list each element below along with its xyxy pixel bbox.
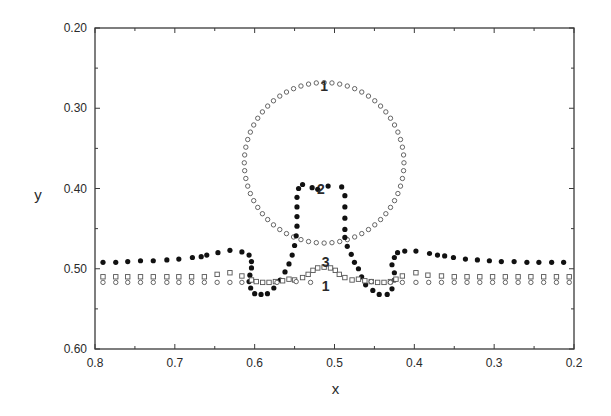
- x-tick-label: 0.4: [406, 356, 423, 370]
- curve-2-point: [389, 286, 394, 291]
- curve-3-point: [375, 280, 379, 284]
- curve-3-point: [267, 280, 271, 284]
- curve-3-point: [138, 275, 142, 279]
- curve-1-point: [215, 280, 219, 284]
- curve-2-point: [349, 252, 354, 257]
- curve-2-point: [549, 260, 554, 265]
- curve-3-point: [101, 275, 105, 279]
- curve-2-point: [258, 292, 263, 297]
- curve-1-point: [189, 280, 193, 284]
- curve-1-point: [388, 280, 392, 284]
- curve-1-point: [478, 280, 482, 284]
- curve-1-point: [366, 94, 370, 98]
- curve-2-point: [249, 265, 254, 270]
- curve-2-point: [290, 253, 295, 258]
- curve-1-point: [503, 280, 507, 284]
- curve-3-point: [343, 275, 347, 279]
- curve-1-point: [396, 130, 400, 134]
- curve-3-point: [114, 275, 118, 279]
- curve-1-point: [278, 227, 282, 231]
- curve-1-point: [248, 130, 252, 134]
- curve-3-point: [503, 275, 507, 279]
- curve-1-point: [138, 280, 142, 284]
- curve-label: 3: [322, 254, 330, 270]
- curve-1-point: [314, 81, 318, 85]
- curve-1-point: [244, 145, 248, 149]
- curve-1-point: [177, 280, 181, 284]
- curve-2-point: [377, 292, 382, 297]
- curve-2-point: [204, 253, 209, 258]
- curve-2-point: [342, 204, 347, 209]
- curve-1-point: [299, 237, 303, 241]
- curve-3-point: [151, 275, 155, 279]
- curve-1-point: [284, 90, 288, 94]
- curve-2-point: [248, 285, 253, 290]
- curve-1-point: [126, 280, 130, 284]
- curve-3-point: [202, 275, 206, 279]
- y-tick-label: 0.30: [64, 101, 88, 115]
- curve-2-point: [326, 183, 331, 188]
- curve-3-point: [215, 272, 219, 276]
- curve-2-point: [164, 257, 169, 262]
- curve-2-point: [294, 224, 299, 229]
- curve-2-point: [138, 258, 143, 263]
- curve-2-point: [300, 182, 305, 187]
- curve-1-point: [352, 235, 356, 239]
- curve-3-point: [529, 275, 533, 279]
- curve-1-point: [202, 280, 206, 284]
- curve-3-point: [177, 275, 181, 279]
- curve-1-point: [516, 280, 520, 284]
- curve-3-point: [382, 280, 386, 284]
- curve-2-point: [190, 255, 195, 260]
- curve-1-point: [252, 198, 256, 202]
- curve-1-point: [360, 231, 364, 235]
- curve-3-point: [452, 275, 456, 279]
- curve-1-point: [114, 280, 118, 284]
- curve-1-point: [256, 205, 260, 209]
- curve-3-point: [254, 279, 258, 283]
- curve-3-point: [400, 274, 404, 278]
- curve-1-point: [414, 280, 418, 284]
- curve-3-point: [280, 279, 284, 283]
- curve-2-point: [271, 285, 276, 290]
- curve-1-point: [260, 212, 264, 216]
- curve-2-point: [356, 266, 361, 271]
- curve-1-point: [567, 280, 571, 284]
- curve-1-point: [398, 184, 402, 188]
- curve-3-point: [249, 278, 253, 282]
- curve-1-point: [337, 82, 341, 86]
- curve-1-point: [306, 239, 310, 243]
- curve-1-point: [244, 176, 248, 180]
- y-tick-label: 0.50: [64, 262, 88, 276]
- curve-2-point: [427, 251, 432, 256]
- curve-2-point: [282, 269, 287, 274]
- x-tick-label: 0.7: [166, 356, 183, 370]
- curve-3-point: [363, 279, 367, 283]
- curve-1-point: [427, 280, 431, 284]
- curve-2-point: [392, 255, 397, 260]
- curve-2-point: [294, 195, 299, 200]
- curve-1-point: [240, 280, 244, 284]
- curve-3-point: [165, 275, 169, 279]
- y-tick-label: 0.40: [64, 182, 88, 196]
- curve-2-point: [294, 204, 299, 209]
- curve-2-point: [252, 291, 257, 296]
- curve-1-point: [402, 161, 406, 165]
- curve-1-point: [388, 116, 392, 120]
- curve-2-point: [215, 250, 220, 255]
- curve-1-point: [465, 280, 469, 284]
- curve-2-point: [392, 270, 397, 275]
- curve-2-point: [435, 253, 440, 258]
- x-tick-label: 0.6: [246, 356, 263, 370]
- curve-1-point: [529, 280, 533, 284]
- curve-2-point: [151, 258, 156, 263]
- curve-2-point: [227, 248, 232, 253]
- curve-2-point: [239, 249, 244, 254]
- curve-1-point: [378, 104, 382, 108]
- curve-3-point: [490, 275, 494, 279]
- curve-3-point: [541, 275, 545, 279]
- curve-1-point: [330, 240, 334, 244]
- curve-2-point: [125, 259, 130, 264]
- curve-1-point: [314, 240, 318, 244]
- x-axis-label: x: [332, 380, 340, 397]
